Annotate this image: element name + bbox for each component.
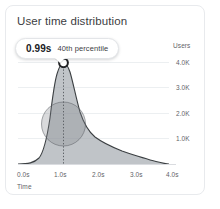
y-tick-4: 4.0K <box>176 59 190 66</box>
x-tick-3: 3.0s <box>130 171 143 178</box>
x-tick-1: 1.0s <box>54 171 67 178</box>
x-tick-4: 4.0s <box>166 171 179 178</box>
percentile-tooltip: 0.99s 40th percentile <box>15 38 119 59</box>
y-axis-title: Users <box>173 42 190 49</box>
tooltip-pointer-icon <box>55 58 65 63</box>
y-tick-2: 2.0K <box>176 110 190 117</box>
x-axis-title: Time <box>17 183 32 190</box>
x-tick-2: 2.0s <box>92 171 105 178</box>
user-time-distribution-card: User time distribution Us <box>5 5 205 195</box>
y-tick-3: 3.0K <box>176 84 190 91</box>
gridlines <box>18 63 169 139</box>
y-tick-1: 1.0K <box>176 135 190 142</box>
tooltip-value: 0.99s <box>26 43 52 54</box>
tooltip-label: 40th percentile <box>58 44 109 53</box>
x-tick-0: 0.0s <box>17 171 30 178</box>
distribution-chart <box>6 6 205 195</box>
